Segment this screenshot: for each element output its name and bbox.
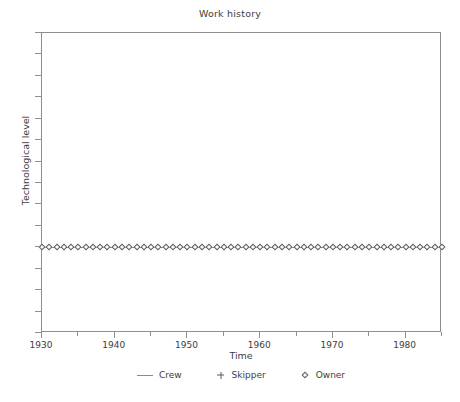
data-point-marker — [417, 244, 424, 251]
data-point-marker — [322, 244, 329, 251]
data-point-marker — [89, 244, 96, 251]
chart-title: Work history — [0, 8, 460, 19]
data-point-marker — [220, 244, 227, 251]
y-axis-tick-major — [35, 332, 41, 333]
data-point-marker — [198, 244, 205, 251]
data-point-marker — [53, 244, 60, 251]
data-point-marker — [373, 244, 380, 251]
plot-area — [41, 32, 441, 332]
y-axis-tick-major — [35, 246, 41, 247]
x-axis-tick-label: 1930 — [19, 340, 63, 350]
data-point-marker — [329, 244, 336, 251]
x-axis-tick-label: 1980 — [383, 340, 427, 350]
data-point-marker — [278, 244, 285, 251]
data-point-marker — [228, 244, 235, 251]
x-axis-tick-label: 1950 — [164, 340, 208, 350]
data-point-marker — [351, 244, 358, 251]
x-axis-tick-minor — [223, 332, 224, 336]
x-axis-tick-minor — [150, 332, 151, 336]
data-point-marker — [169, 244, 176, 251]
y-axis-tick-major — [35, 118, 41, 119]
chart-legend: CrewSkipperOwner — [41, 370, 441, 380]
legend-label: Owner — [316, 370, 345, 380]
data-point-marker — [300, 244, 307, 251]
data-point-marker — [409, 244, 416, 251]
data-point-marker — [388, 244, 395, 251]
x-axis-tick-minor — [77, 332, 78, 336]
data-point-marker — [424, 244, 431, 251]
data-point-marker — [380, 244, 387, 251]
y-axis-tick-major — [35, 161, 41, 162]
data-point-marker — [133, 244, 140, 251]
data-point-marker — [126, 244, 133, 251]
y-axis-tick-major — [35, 32, 41, 33]
y-axis-tick-major — [35, 75, 41, 76]
x-axis-tick-minor — [368, 332, 369, 336]
series-line-segment — [42, 247, 442, 248]
data-point-marker — [249, 244, 256, 251]
legend-entry-owner[interactable]: Owner — [300, 370, 345, 380]
data-point-marker — [271, 244, 278, 251]
data-point-marker — [148, 244, 155, 251]
data-point-marker — [104, 244, 111, 251]
data-point-marker — [68, 244, 75, 251]
y-axis-tick-major — [35, 139, 41, 140]
x-axis-tick-major — [332, 332, 333, 338]
y-axis-tick-major — [35, 182, 41, 183]
y-axis-tick-major — [35, 268, 41, 269]
data-point-marker — [162, 244, 169, 251]
x-axis-tick-major — [41, 332, 42, 338]
data-point-marker — [191, 244, 198, 251]
data-point-marker — [60, 244, 67, 251]
y-axis-tick-major — [35, 53, 41, 54]
legend-entry-crew[interactable]: Crew — [137, 370, 182, 380]
data-point-marker — [213, 244, 220, 251]
x-axis-tick-major — [114, 332, 115, 338]
data-point-marker — [308, 244, 315, 251]
x-axis-tick-label: 1970 — [310, 340, 354, 350]
data-point-marker — [438, 244, 445, 251]
x-axis-tick-major — [186, 332, 187, 338]
y-axis-tick-major — [35, 203, 41, 204]
data-point-marker — [366, 244, 373, 251]
data-point-marker — [344, 244, 351, 251]
data-point-marker — [402, 244, 409, 251]
data-point-marker — [155, 244, 162, 251]
y-axis-title: Technological level — [20, 91, 31, 231]
data-point-marker — [38, 244, 45, 251]
plus-marker-icon — [216, 371, 226, 380]
data-point-marker — [337, 244, 344, 251]
line-marker-icon — [137, 371, 153, 380]
data-point-marker — [431, 244, 438, 251]
legend-label: Crew — [159, 370, 182, 380]
y-axis-tick-major — [35, 96, 41, 97]
data-point-marker — [184, 244, 191, 251]
data-point-marker — [293, 244, 300, 251]
data-point-marker — [242, 244, 249, 251]
x-axis-title: Time — [41, 350, 441, 361]
x-axis-tick-label: 1960 — [237, 340, 281, 350]
x-axis-tick-major — [405, 332, 406, 338]
data-point-marker — [206, 244, 213, 251]
chart-container: Work history 193019401950196019701980 Ti… — [0, 0, 460, 402]
data-point-marker — [177, 244, 184, 251]
diamond-marker-icon — [300, 371, 310, 380]
data-point-marker — [82, 244, 89, 251]
data-point-marker — [46, 244, 53, 251]
data-point-marker — [235, 244, 242, 251]
data-point-marker — [315, 244, 322, 251]
data-point-marker — [264, 244, 271, 251]
data-point-marker — [75, 244, 82, 251]
data-point-marker — [395, 244, 402, 251]
y-axis-tick-major — [35, 289, 41, 290]
data-point-marker — [140, 244, 147, 251]
data-point-marker — [286, 244, 293, 251]
data-point-marker — [118, 244, 125, 251]
y-axis-tick-major — [35, 311, 41, 312]
y-axis-tick-major — [35, 225, 41, 226]
x-axis-tick-minor — [441, 332, 442, 336]
data-point-marker — [257, 244, 264, 251]
x-axis-tick-minor — [296, 332, 297, 336]
legend-entry-skipper[interactable]: Skipper — [216, 370, 266, 380]
x-axis-tick-major — [259, 332, 260, 338]
